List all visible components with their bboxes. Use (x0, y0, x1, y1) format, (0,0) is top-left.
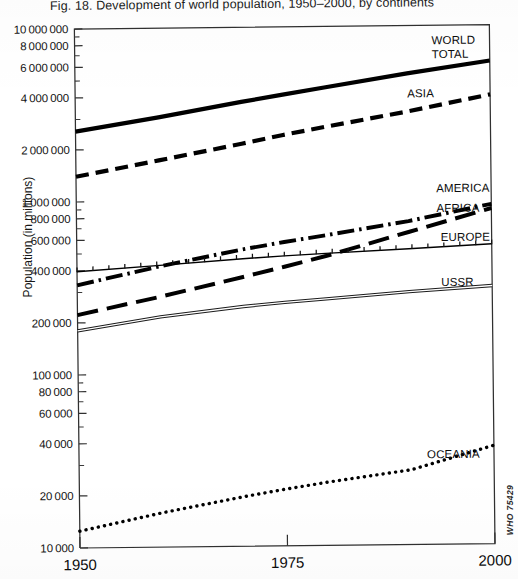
y-tick-label: 600 000 (31, 234, 71, 246)
y-tick-label: 10 000 000 (14, 23, 69, 36)
y-tick-label: 800 000 (30, 213, 70, 225)
x-tick-label: 2000 (478, 551, 512, 568)
population-line-chart: 10 00020 00040 00060 00080 000100 000200… (0, 0, 518, 579)
y-tick-label: 40 000 (39, 438, 73, 450)
series-label-america: AMERICA (436, 182, 490, 195)
y-tick-label: 100 000 (32, 369, 72, 381)
y-tick-label: 6 000 000 (20, 61, 69, 74)
series-africa (76, 208, 492, 315)
y-tick-label: 1 000 000 (22, 196, 71, 209)
chart-plot-area: 10 00020 00040 00060 00080 000100 000200… (0, 0, 518, 579)
series-label-ussr: USSR (441, 276, 474, 288)
y-tick-label: 10 000 (40, 542, 74, 554)
y-tick-label: 400 000 (31, 265, 71, 277)
series-label-europe: EUROPE (441, 231, 491, 244)
x-axis: 195019752000 (63, 532, 512, 573)
chart-frame (74, 25, 495, 548)
y-tick-label: 80 000 (39, 386, 73, 398)
x-tick-label: 1975 (271, 554, 305, 571)
data-series-group (75, 60, 495, 531)
series-label-oceania: OCEANIA (427, 448, 480, 461)
series-label-africa: AFRICA (436, 202, 479, 214)
y-tick-label: 4 000 000 (21, 92, 70, 105)
y-tick-label: 200 000 (32, 317, 72, 329)
series-label-world-total: WORLD (431, 34, 475, 46)
series-label-asia: ASIA (407, 87, 434, 99)
y-tick-label: 60 000 (39, 407, 73, 419)
series-ussr (77, 286, 492, 331)
x-tick-label: 1950 (63, 556, 97, 573)
y-tick-label: 20 000 (40, 490, 74, 502)
series-asia (75, 94, 491, 176)
y-tick-label: 8 000 000 (20, 40, 69, 53)
series-label-world-total: TOTAL (432, 48, 469, 60)
series-america (76, 204, 492, 286)
y-tick-label: 2 000 000 (21, 144, 70, 157)
